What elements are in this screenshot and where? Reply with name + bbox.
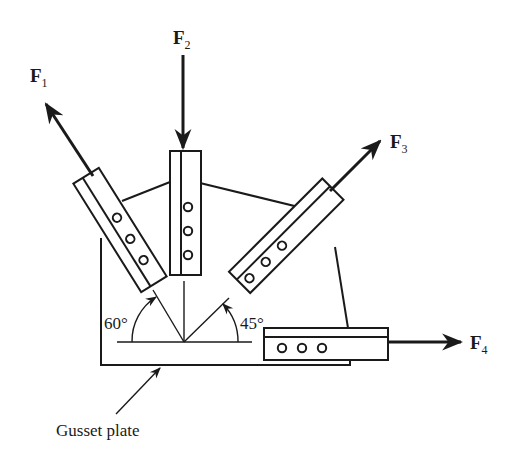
member-f4	[264, 328, 388, 360]
bolt-hole	[278, 344, 286, 352]
f2-label: F2	[173, 27, 191, 52]
reference-lines	[117, 281, 252, 342]
f3-arrow	[330, 141, 380, 191]
f1-arrow	[46, 104, 93, 176]
bolt-hole	[298, 344, 306, 352]
gusset-plate-caption: Gusset plate	[56, 421, 140, 440]
f1-line-of-action	[153, 290, 184, 342]
member-f3	[229, 178, 344, 293]
member-f2	[170, 151, 201, 275]
angle-arc-45	[223, 304, 238, 342]
bolt-hole	[184, 227, 192, 235]
plate-top-left-edge	[122, 182, 170, 201]
f3-label: F3	[390, 131, 408, 156]
member-f1	[73, 168, 166, 292]
plate-right-edge	[335, 247, 348, 328]
f1-label: F1	[30, 65, 48, 90]
bolt-hole	[184, 251, 192, 259]
bolt-hole	[318, 344, 326, 352]
bolt-hole	[184, 203, 192, 211]
f4-label: F4	[470, 332, 488, 357]
angle-arc-60	[132, 297, 156, 342]
gusset-leader-arrow	[116, 368, 160, 414]
angle-label-45: 45°	[240, 314, 264, 333]
f3-line-of-action	[184, 298, 229, 342]
gusset-plate-diagram: F1 F2 F3 F4 60° 45° Gusset plate	[0, 0, 514, 463]
angle-label-60: 60°	[104, 314, 128, 333]
